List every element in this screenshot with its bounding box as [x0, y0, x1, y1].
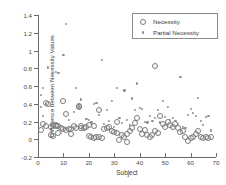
data-point-partial-necessity	[187, 114, 189, 116]
y-tick-label: 0	[0, 136, 32, 143]
data-point-partial-necessity	[100, 59, 102, 61]
y-tick-label: 0.8	[0, 65, 32, 72]
data-point-partial-necessity	[195, 115, 197, 117]
x-axis-label: Subject	[38, 169, 216, 176]
data-point-necessity	[114, 119, 120, 125]
data-point-partial-necessity	[126, 119, 128, 121]
data-point-partial-necessity	[162, 100, 164, 102]
data-point-partial-necessity	[57, 72, 59, 74]
data-point-partial-necessity	[146, 121, 148, 123]
y-tick-label: 0.2	[0, 118, 32, 125]
data-point-partial-necessity	[60, 132, 62, 134]
data-point-partial-necessity	[172, 117, 174, 119]
data-point-partial-necessity	[156, 109, 158, 111]
data-point-partial-necessity	[98, 114, 100, 116]
y-tick-label: 0.4	[0, 100, 32, 107]
data-point-partial-necessity	[131, 97, 133, 99]
y-tick	[34, 157, 38, 158]
legend-item-partial-necessity: Partial Necessity	[133, 27, 217, 38]
data-point-partial-necessity	[123, 89, 125, 91]
x-tick-label: 70	[213, 159, 220, 166]
data-point-partial-necessity	[169, 119, 171, 121]
data-point-necessity	[157, 113, 163, 119]
data-point-partial-necessity	[65, 23, 67, 25]
data-point-necessity	[63, 111, 69, 117]
data-point-partial-necessity	[121, 122, 123, 124]
x-axis-line	[38, 157, 216, 158]
data-point-partial-necessity	[73, 111, 75, 113]
data-point-partial-necessity	[149, 115, 151, 117]
data-point-necessity	[134, 115, 140, 121]
data-point-necessity	[208, 134, 214, 140]
y-tick-label: 1.2	[0, 29, 32, 36]
data-point-necessity	[60, 98, 66, 104]
data-point-partial-necessity	[207, 115, 209, 117]
scatter-figure: Difference between Necessity Values -0.2…	[0, 0, 226, 185]
data-point-partial-necessity	[113, 126, 115, 128]
data-point-partial-necessity	[42, 115, 44, 117]
data-point-partial-necessity	[95, 102, 97, 104]
x-tick-label: 30	[111, 159, 118, 166]
data-point-partial-necessity	[154, 117, 156, 119]
data-point-partial-necessity	[80, 98, 82, 100]
x-tick-label: 50	[162, 159, 169, 166]
data-point-partial-necessity	[179, 76, 181, 78]
data-point-partial-necessity	[210, 129, 212, 131]
data-point-partial-necessity	[184, 127, 186, 129]
x-tick-label: 0	[36, 159, 39, 166]
data-point-partial-necessity	[47, 66, 49, 68]
data-point-partial-necessity	[200, 120, 202, 122]
legend-label-partial-necessity: Partial Necessity	[153, 29, 199, 36]
legend-label-necessity: Necessity	[153, 18, 180, 25]
data-point-partial-necessity	[116, 87, 118, 89]
x-tick	[216, 153, 217, 157]
y-tick-label: 1	[0, 47, 32, 54]
data-point-partial-necessity	[67, 119, 69, 121]
data-point-necessity	[124, 139, 130, 145]
partial-necessity-marker-icon	[133, 31, 153, 33]
data-point-partial-necessity	[164, 116, 166, 118]
data-point-partial-necessity	[197, 96, 199, 98]
data-point-partial-necessity	[88, 119, 90, 121]
x-tick-label: 20	[85, 159, 92, 166]
y-tick-label: 1.4	[0, 12, 32, 19]
data-point-partial-necessity	[42, 87, 44, 89]
data-point-partial-necessity	[62, 54, 64, 56]
data-point-partial-necessity	[134, 109, 136, 111]
data-point-partial-necessity	[106, 109, 108, 111]
data-point-partial-necessity	[189, 108, 191, 110]
necessity-marker-icon	[133, 19, 153, 25]
y-tick-label: 0.6	[0, 83, 32, 90]
data-point-partial-necessity	[202, 124, 204, 126]
data-point-partial-necessity	[39, 106, 41, 108]
data-point-partial-necessity	[39, 94, 41, 96]
data-point-necessity	[96, 107, 102, 113]
data-point-partial-necessity	[111, 100, 113, 102]
data-point-necessity	[152, 63, 158, 69]
data-point-necessity	[91, 123, 97, 129]
data-point-necessity	[68, 131, 74, 137]
data-point-partial-necessity	[108, 120, 110, 122]
data-point-necessity	[38, 127, 44, 133]
data-point-necessity	[99, 135, 105, 141]
x-tick-label: 60	[187, 159, 194, 166]
data-point-partial-necessity	[75, 87, 77, 89]
x-tick-label: 40	[136, 159, 143, 166]
data-point-partial-necessity	[118, 117, 120, 119]
legend: Necessity Partial Necessity	[132, 13, 218, 39]
data-point-partial-necessity	[167, 106, 169, 108]
x-tick-label: 10	[60, 159, 67, 166]
data-point-partial-necessity	[192, 112, 194, 114]
y-tick-label: -0.2	[0, 154, 32, 161]
data-point-partial-necessity	[136, 82, 138, 84]
data-point-partial-necessity	[151, 120, 153, 122]
data-point-partial-necessity	[141, 108, 143, 110]
data-point-necessity	[155, 130, 161, 136]
legend-item-necessity: Necessity	[133, 16, 217, 27]
